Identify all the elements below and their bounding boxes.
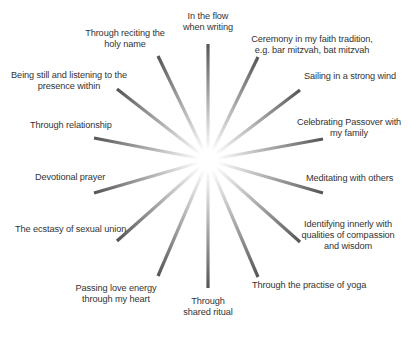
label-devotional-prayer: Devotional prayer	[35, 172, 115, 183]
label-holy-name: Through reciting the holy name	[84, 28, 166, 50]
center-hub	[199, 151, 217, 169]
spoke-ray	[208, 90, 300, 160]
label-love-energy: Passing love energy through my heart	[66, 283, 166, 305]
label-shared-ritual: Through shared ritual	[175, 296, 241, 318]
spoke-ray	[158, 160, 208, 276]
spoke-ray	[208, 139, 323, 160]
spoke-ray	[208, 160, 258, 277]
spoke-ray	[158, 56, 208, 160]
label-passover: Celebrating Passover with my family	[290, 117, 408, 139]
spoke-ray	[94, 138, 208, 160]
label-ceremony: Ceremony in my faith tradition, e.g. bar…	[244, 34, 380, 56]
label-being-still: Being still and listening to the presenc…	[8, 70, 130, 92]
spoke-ray	[117, 89, 208, 160]
label-sailing: Sailing in a strong wind	[304, 71, 404, 82]
label-yoga: Through the practise of yoga	[252, 280, 382, 291]
label-identifying: Identifying innerly with qualities of co…	[300, 219, 396, 252]
spoke-ray	[208, 57, 258, 160]
label-sexual-union: The ecstasy of sexual union	[15, 224, 131, 235]
label-meditating: Meditating with others	[306, 173, 410, 184]
label-relationship: Through relationship	[30, 120, 120, 131]
label-flow-writing: In the flow when writing	[170, 11, 246, 33]
